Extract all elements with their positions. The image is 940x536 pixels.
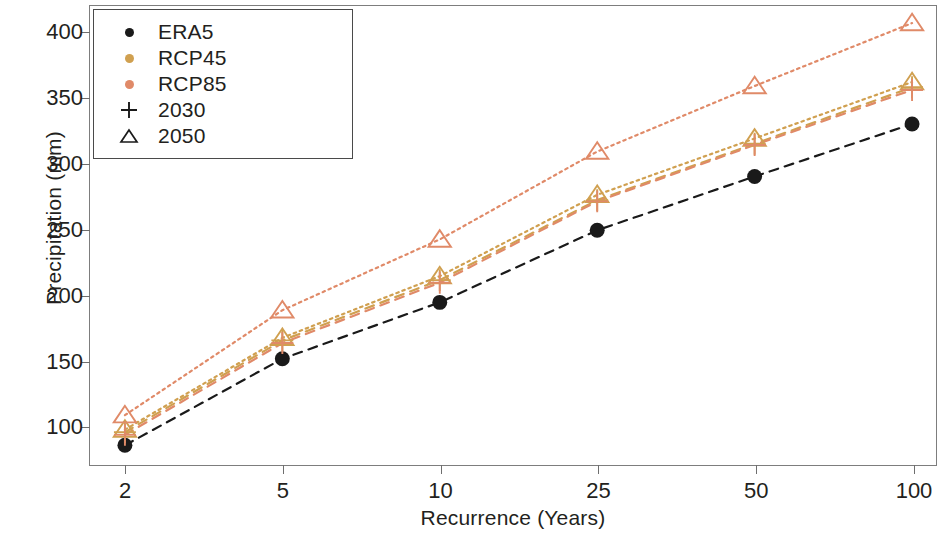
- chart-legend: ERA5RCP45RCP8520302050: [93, 9, 353, 159]
- series-line: [125, 124, 912, 445]
- legend-item-label: 2030: [158, 98, 206, 122]
- x-axis-tick: [125, 465, 126, 474]
- legend-circle-icon: [112, 28, 146, 37]
- legend-item[interactable]: 2030: [94, 97, 352, 123]
- data-point: [744, 134, 766, 156]
- data-point: [586, 190, 608, 212]
- x-axis-tick-label: 10: [428, 478, 452, 504]
- x-axis-tick-label: 2: [119, 478, 131, 504]
- y-axis-tick-label: 250: [46, 217, 83, 243]
- x-axis-tick: [756, 465, 757, 474]
- legend-item-label: RCP45: [158, 46, 227, 70]
- data-point: [432, 295, 447, 310]
- x-axis-tick-label: 50: [744, 478, 768, 504]
- x-axis-tick-label: 5: [277, 478, 289, 504]
- legend-item[interactable]: RCP85: [94, 71, 352, 97]
- data-point: [590, 223, 605, 238]
- x-axis-tick-label: 25: [586, 478, 610, 504]
- legend-circle-icon-glyph: [125, 80, 134, 89]
- data-point: [901, 79, 923, 101]
- x-axis-tick: [441, 465, 442, 474]
- legend-item[interactable]: 2050: [94, 123, 352, 149]
- data-point: [429, 230, 451, 247]
- legend-circle-icon: [112, 80, 146, 89]
- chart-figure: Precipitation (mm) ERA5RCP45RCP852030205…: [0, 0, 940, 536]
- x-axis-title: Recurrence (Years): [89, 506, 937, 530]
- legend-circle-icon-glyph: [125, 54, 134, 63]
- legend-item[interactable]: RCP45: [94, 45, 352, 71]
- plot-area: ERA5RCP45RCP8520302050 10015020025030035…: [89, 5, 937, 466]
- data-point: [905, 117, 920, 132]
- y-axis-tick-label: 300: [46, 151, 83, 177]
- y-axis-tick-label: 350: [46, 85, 83, 111]
- y-axis-tick-label: 400: [46, 19, 83, 45]
- y-axis-tick-label: 200: [46, 283, 83, 309]
- legend-triangle-icon: [112, 127, 146, 145]
- x-axis-tick: [598, 465, 599, 474]
- x-axis-tick-label: 100: [896, 478, 933, 504]
- data-point: [747, 169, 762, 184]
- legend-item-label: RCP85: [158, 72, 227, 96]
- x-axis-tick: [283, 465, 284, 474]
- legend-item[interactable]: ERA5: [94, 19, 352, 45]
- legend-item-label: ERA5: [158, 20, 214, 44]
- x-axis-tick: [914, 465, 915, 474]
- legend-item-label: 2050: [158, 124, 206, 148]
- y-axis-tick-label: 150: [46, 349, 83, 375]
- legend-circle-icon-glyph: [125, 28, 134, 37]
- legend-circle-icon: [112, 54, 146, 63]
- legend-plus-icon: [112, 100, 146, 120]
- y-axis-tick-label: 100: [46, 414, 83, 440]
